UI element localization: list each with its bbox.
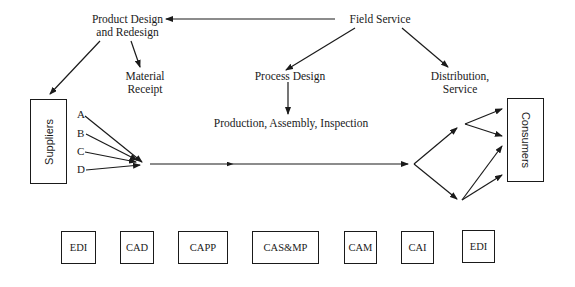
node-field-service: Field Service [330, 13, 430, 26]
distribution-line1: Distribution, [410, 70, 510, 83]
material-receipt-line2: Receipt [110, 83, 180, 96]
suppliers-label: Suppliers [43, 119, 55, 165]
node-suppliers: Suppliers [30, 99, 67, 184]
node-process-design: Process Design [240, 70, 340, 83]
system-cas-mp: CAS&MP [252, 231, 319, 264]
system-cam: CAM [344, 231, 377, 264]
input-c: C [77, 145, 84, 157]
distribution-line2: Service [410, 83, 510, 96]
node-product-design: Product Design and Redesign [70, 13, 185, 39]
node-material-receipt: Material Receipt [110, 70, 180, 96]
input-d: D [77, 163, 85, 175]
input-a: A [77, 108, 85, 120]
product-design-line1: Product Design [70, 13, 185, 26]
system-cad: CAD [120, 231, 154, 264]
system-edi-consumers: EDI [462, 230, 495, 263]
consumers-label: Consumers [520, 112, 532, 168]
product-design-line2: and Redesign [70, 26, 185, 39]
node-consumers: Consumers [507, 98, 544, 182]
system-edi-suppliers: EDI [61, 231, 96, 264]
system-cai: CAI [401, 231, 434, 264]
flow-diagram: Product Design and Redesign Field Servic… [0, 0, 575, 287]
material-receipt-line1: Material [110, 70, 180, 83]
node-distribution-service: Distribution, Service [410, 70, 510, 96]
node-production: Production, Assembly, Inspection [196, 117, 386, 130]
system-capp: CAPP [178, 231, 228, 264]
input-b: B [77, 127, 84, 139]
